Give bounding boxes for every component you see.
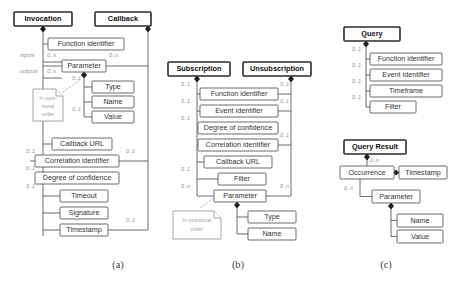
attr-label: Timeout bbox=[71, 191, 97, 200]
multiplicity-label: 0..1 bbox=[280, 81, 289, 87]
attr-label: Timestamp bbox=[405, 168, 440, 177]
panel-a: In posi- tional order Invocation Callbac… bbox=[14, 12, 151, 236]
note-line-2: order bbox=[191, 226, 204, 232]
attr-label: Name bbox=[410, 216, 429, 225]
attr-label: Type bbox=[264, 212, 280, 221]
class-callback[interactable]: Callback bbox=[95, 12, 151, 26]
multiplicity-label: 0..n bbox=[109, 52, 118, 58]
composition-diamond bbox=[388, 203, 393, 209]
attr-label: Name bbox=[103, 97, 122, 106]
multiplicity-label: 0..1 bbox=[72, 106, 81, 112]
attr-function-identifier-a[interactable]: Function identifier bbox=[48, 38, 124, 50]
class-unsubscription[interactable]: Unsubscription bbox=[243, 62, 311, 76]
multiplicity-label: 0..1 bbox=[72, 75, 81, 81]
attr-callback-url-b[interactable]: Callback URL bbox=[204, 156, 272, 168]
multiplicity-label: 0..n bbox=[181, 183, 190, 189]
class-label: Unsubscription bbox=[250, 64, 305, 73]
multiplicity-label: 0..1 bbox=[352, 94, 361, 100]
attr-timeout-a[interactable]: Timeout bbox=[60, 190, 108, 202]
attr-timeframe-c[interactable]: Timeframe bbox=[370, 85, 442, 97]
attr-degree-of-confidence-a[interactable]: Degree of confidence bbox=[35, 172, 119, 184]
uml-figure: In posi- tional order Invocation Callbac… bbox=[0, 0, 455, 281]
diagram-canvas: In posi- tional order Invocation Callbac… bbox=[0, 0, 455, 281]
attr-label: Occurrence bbox=[348, 168, 385, 177]
attr-function-identifier-b[interactable]: Function identifier bbox=[200, 88, 278, 100]
composition-diamond bbox=[194, 76, 199, 82]
multiplicity-label: 0..n bbox=[47, 52, 56, 58]
composition-diamond bbox=[288, 76, 293, 82]
attr-label: Degree of confidence bbox=[43, 173, 111, 182]
multiplicity-label: 0..n bbox=[344, 185, 353, 191]
attr-parameter-c[interactable]: Parameter bbox=[372, 190, 420, 203]
composition-diamond bbox=[40, 26, 45, 32]
attr-label: Timestamp bbox=[66, 225, 101, 234]
attr-label: Event identifier bbox=[382, 70, 430, 79]
composition-diamond bbox=[364, 154, 369, 160]
attr-degree-of-confidence-b[interactable]: Degree of confidence bbox=[198, 122, 278, 134]
attr-correlation-identifier-b[interactable]: Correlation identifier bbox=[198, 139, 278, 151]
attr-correlation-identifier-a[interactable]: Correlation identifier bbox=[35, 155, 119, 167]
attr-label: Function identifier bbox=[58, 39, 115, 48]
attr-label: Event identifier bbox=[215, 106, 263, 115]
class-subscription[interactable]: Subscription bbox=[168, 62, 230, 76]
attr-value-a[interactable]: Value bbox=[92, 111, 134, 123]
attr-name-a[interactable]: Name bbox=[92, 96, 134, 108]
panel-b: In positional order Subscription Unsubsc… bbox=[168, 62, 311, 240]
note-in-positional-order-b: In positional order bbox=[173, 211, 221, 239]
multiplicity-label: 0..1 bbox=[181, 115, 190, 121]
multiplicity-label: 0..1 bbox=[352, 46, 361, 52]
note-line-1: In positional bbox=[183, 217, 212, 223]
attr-type-b[interactable]: Type bbox=[248, 211, 296, 223]
attr-timestamp-a[interactable]: Timestamp bbox=[60, 224, 108, 236]
multiplicity-label: 0..1 bbox=[280, 132, 289, 138]
multiplicity-label: 0..1 bbox=[352, 62, 361, 68]
multiplicity-label: 0..1 bbox=[181, 166, 190, 172]
attr-function-identifier-c[interactable]: Function identifier bbox=[370, 53, 442, 65]
attr-name-b[interactable]: Name bbox=[248, 228, 296, 240]
multiplicity-label: 0..1 bbox=[126, 148, 135, 154]
attr-label: Type bbox=[105, 82, 121, 91]
caption-c: (c) bbox=[380, 259, 392, 271]
attr-event-identifier-c[interactable]: Event identifier bbox=[370, 69, 442, 81]
panel-c: Query Query Result Function identifier E… bbox=[340, 27, 447, 243]
attr-label: Timeframe bbox=[389, 86, 423, 95]
attr-label: Function identifier bbox=[211, 89, 268, 98]
class-label: Query Result bbox=[352, 142, 399, 151]
attr-label: Callback URL bbox=[216, 157, 260, 166]
multiplicity-label: 0..1 bbox=[352, 78, 361, 84]
attr-occurrence-c[interactable]: Occurrence bbox=[340, 166, 394, 179]
attr-name-c[interactable]: Name bbox=[397, 214, 443, 227]
multiplicity-label: 0..1 bbox=[26, 165, 35, 171]
attr-event-identifier-b[interactable]: Event identifier bbox=[200, 105, 278, 117]
class-label: Subscription bbox=[176, 64, 222, 73]
note-line-3: order bbox=[42, 111, 55, 117]
class-query-result[interactable]: Query Result bbox=[344, 140, 406, 154]
attr-parameter-a[interactable]: Parameter bbox=[62, 60, 106, 72]
attr-label: Filter bbox=[385, 102, 402, 111]
attr-label: Degree of confidence bbox=[204, 123, 272, 132]
attr-type-a[interactable]: Type bbox=[92, 81, 134, 93]
multiplicity-label: 0..1 bbox=[26, 183, 35, 189]
note-in-positional-order-a: In posi- tional order bbox=[33, 89, 63, 121]
attr-signature-a[interactable]: Signature bbox=[60, 207, 108, 219]
attr-label: Signature bbox=[69, 208, 100, 217]
attr-filter-c[interactable]: Filter bbox=[370, 101, 416, 113]
attr-label: Correlation identifier bbox=[206, 140, 271, 149]
class-invocation[interactable]: Invocation bbox=[14, 12, 72, 26]
attr-label: Filter bbox=[234, 174, 251, 183]
class-label: Query bbox=[361, 29, 383, 38]
class-label: Callback bbox=[108, 14, 139, 23]
attr-label: Correlation identifier bbox=[45, 156, 110, 165]
caption-b: (b) bbox=[232, 259, 245, 271]
multiplicity-label: 0..1 bbox=[181, 98, 190, 104]
note-line-2: tional bbox=[42, 103, 55, 109]
attr-parameter-b[interactable]: Parameter bbox=[214, 190, 266, 202]
attr-label: Parameter bbox=[67, 61, 101, 70]
attr-callback-url-a[interactable]: Callback URL bbox=[52, 138, 112, 150]
class-query[interactable]: Query bbox=[344, 27, 400, 41]
attr-timestamp-c[interactable]: Timestamp bbox=[399, 166, 447, 179]
attr-filter-b[interactable]: Filter bbox=[218, 173, 266, 185]
attr-value-c[interactable]: Value bbox=[397, 230, 443, 243]
attr-label: Function identifier bbox=[378, 54, 435, 63]
attr-label: Parameter bbox=[379, 192, 413, 201]
